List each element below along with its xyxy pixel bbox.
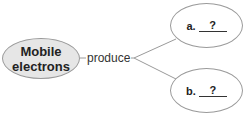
target-b-letter: b. — [186, 85, 196, 97]
link-label-produce: produce — [86, 51, 131, 65]
target-a-blank: ? — [199, 19, 227, 32]
source-node-mobile-electrons: Mobile electrons — [2, 38, 80, 79]
connector-fork-to-a — [134, 39, 176, 58]
target-node-b: b. ? — [170, 68, 243, 113]
target-a-letter: a. — [186, 20, 195, 32]
target-node-a: a. ? — [170, 3, 243, 48]
target-b-blank: ? — [199, 84, 227, 97]
source-node-label: Mobile electrons — [6, 44, 76, 74]
concept-map: Mobile electrons produce a. ? b. ? — [0, 0, 245, 116]
connector-fork-to-b — [134, 58, 176, 79]
